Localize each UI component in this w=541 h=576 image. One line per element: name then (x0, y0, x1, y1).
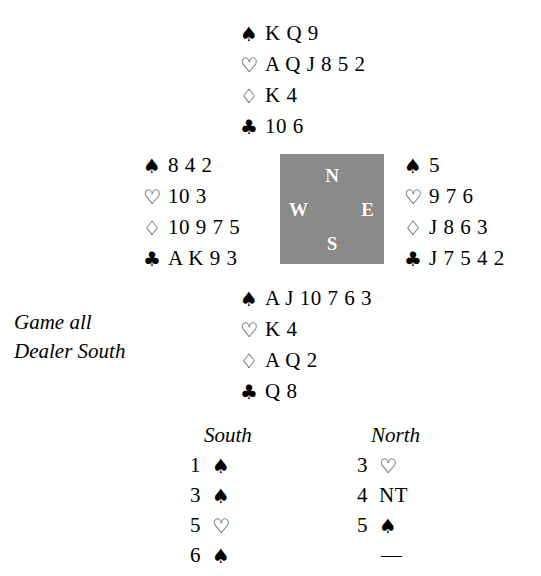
bid-row: 6 ♠ (190, 540, 252, 570)
auction-column-north: North 3 ♡ 4 NT 5 ♠ — (357, 420, 420, 570)
spade-suit-icon: ♠ (404, 151, 426, 182)
hand-north-spades: K Q 9 (262, 18, 319, 49)
diamond-suit-icon: ♢ (240, 346, 262, 377)
bid-row: — (357, 540, 420, 570)
hand-south-hearts: K 4 (262, 314, 297, 345)
spade-suit-icon: ♠ (240, 19, 262, 50)
club-suit-icon: ♣ (240, 112, 262, 143)
hand-west-spades-row: ♠ 8 4 2 (143, 150, 240, 181)
hand-north-diamonds-row: ♢ K 4 (240, 80, 366, 111)
bid-level: 1 (190, 450, 212, 480)
hand-west-diamonds-row: ♢ 10 9 7 5 (143, 212, 240, 243)
bid-row: 4 NT (357, 480, 420, 510)
compass-west-label: W (289, 200, 308, 219)
diamond-suit-icon: ♢ (404, 213, 426, 244)
hand-west: ♠ 8 4 2 ♡ 10 3 ♢ 10 9 7 5 ♣ A K 9 3 (143, 150, 240, 274)
hand-east-diamonds-row: ♢ J 8 6 3 (404, 212, 505, 243)
hand-north-diamonds: K 4 (262, 80, 297, 111)
hand-north-clubs: 10 6 (262, 111, 304, 142)
hand-east-diamonds: J 8 6 3 (426, 212, 488, 243)
club-suit-icon: ♣ (143, 244, 165, 275)
notrump-label: NT (379, 480, 408, 510)
bid-row: 3 ♡ (357, 450, 420, 480)
bid-row: 5 ♡ (190, 510, 252, 540)
hand-east-clubs: J 7 5 4 2 (426, 243, 505, 274)
hand-south-spades-row: ♠ A J 10 7 6 3 (240, 283, 372, 314)
diamond-suit-icon: ♢ (240, 81, 262, 112)
hand-east-hearts: 9 7 6 (426, 181, 474, 212)
bid-level: 4 (357, 480, 379, 510)
bid-row: 5 ♠ (357, 510, 420, 540)
hand-south-diamonds: A Q 2 (262, 345, 318, 376)
compass-box: N W E S (280, 154, 384, 264)
hand-west-clubs-row: ♣ A K 9 3 (143, 243, 240, 274)
hand-east-hearts-row: ♡ 9 7 6 (404, 181, 505, 212)
bridge-deal-diagram: ♠ K Q 9 ♡ A Q J 8 5 2 ♢ K 4 ♣ 10 6 ♠ 8 4… (0, 0, 541, 576)
compass-east-label: E (361, 200, 374, 219)
bid-row: 3 ♠ (190, 480, 252, 510)
spade-suit-icon: ♠ (240, 284, 262, 315)
hand-east-spades: 5 (426, 150, 440, 181)
hand-south-clubs-row: ♣ Q 8 (240, 376, 372, 407)
hand-north-clubs-row: ♣ 10 6 (240, 111, 366, 142)
hand-north-hearts-row: ♡ A Q J 8 5 2 (240, 49, 366, 80)
hand-south-diamonds-row: ♢ A Q 2 (240, 345, 372, 376)
heart-suit-icon: ♡ (240, 50, 262, 81)
club-suit-icon: ♣ (404, 244, 426, 275)
heart-suit-icon: ♡ (379, 451, 397, 481)
auction-heading-north: North (357, 420, 420, 450)
bid-level: 5 (190, 510, 212, 540)
hand-south-spades: A J 10 7 6 3 (262, 283, 372, 314)
spade-suit-icon: ♠ (212, 541, 230, 571)
hand-north-spades-row: ♠ K Q 9 (240, 18, 366, 49)
hand-west-diamonds: 10 9 7 5 (165, 212, 240, 243)
diamond-suit-icon: ♢ (143, 213, 165, 244)
hand-north-hearts: A Q J 8 5 2 (262, 49, 366, 80)
compass-south-label: S (327, 234, 338, 253)
hand-west-spades: 8 4 2 (165, 150, 213, 181)
dealer-label: Dealer South (14, 337, 125, 366)
club-suit-icon: ♣ (240, 377, 262, 408)
heart-suit-icon: ♡ (143, 182, 165, 213)
vulnerability-label: Game all (14, 308, 125, 337)
bid-level: 3 (357, 450, 379, 480)
spade-suit-icon: ♠ (212, 481, 230, 511)
bid-level: 3 (190, 480, 212, 510)
hand-north: ♠ K Q 9 ♡ A Q J 8 5 2 ♢ K 4 ♣ 10 6 (240, 18, 366, 142)
hand-west-hearts-row: ♡ 10 3 (143, 181, 240, 212)
bid-level: 5 (357, 510, 379, 540)
auction-end-dash: — (379, 540, 402, 570)
bid-row: 1 ♠ (190, 450, 252, 480)
auction-heading-south: South (190, 420, 252, 450)
deal-conditions: Game all Dealer South (14, 308, 125, 366)
hand-east-spades-row: ♠ 5 (404, 150, 505, 181)
spade-suit-icon: ♠ (379, 511, 397, 541)
hand-south: ♠ A J 10 7 6 3 ♡ K 4 ♢ A Q 2 ♣ Q 8 (240, 283, 372, 407)
heart-suit-icon: ♡ (404, 182, 426, 213)
auction-column-south: South 1 ♠ 3 ♠ 5 ♡ 6 ♠ (190, 420, 252, 570)
hand-south-clubs: Q 8 (262, 376, 297, 407)
hand-west-clubs: A K 9 3 (165, 243, 237, 274)
bid-level: 6 (190, 540, 212, 570)
spade-suit-icon: ♠ (212, 451, 230, 481)
hand-east: ♠ 5 ♡ 9 7 6 ♢ J 8 6 3 ♣ J 7 5 4 2 (404, 150, 505, 274)
hand-west-hearts: 10 3 (165, 181, 207, 212)
heart-suit-icon: ♡ (212, 511, 230, 541)
spade-suit-icon: ♠ (143, 151, 165, 182)
hand-east-clubs-row: ♣ J 7 5 4 2 (404, 243, 505, 274)
hand-south-hearts-row: ♡ K 4 (240, 314, 372, 345)
compass-north-label: N (325, 166, 339, 185)
heart-suit-icon: ♡ (240, 315, 262, 346)
